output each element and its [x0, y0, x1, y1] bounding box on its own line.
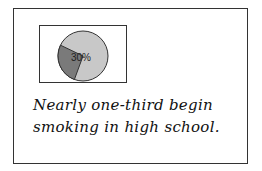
caption: Nearly one-third begin smoking in high s… — [33, 94, 243, 138]
pie-chart-box: 30% — [39, 25, 127, 83]
pie-slice-label: 30% — [71, 52, 91, 63]
caption-line-2: smoking in high school. — [33, 116, 243, 138]
slide-frame: 30% Nearly one-third begin smoking in hi… — [13, 8, 248, 164]
pie-chart: 30% — [57, 30, 109, 82]
caption-line-1: Nearly one-third begin — [33, 94, 243, 116]
